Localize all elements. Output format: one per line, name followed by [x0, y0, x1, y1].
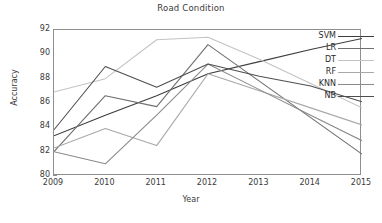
- legend-item-lr[interactable]: LR: [292, 43, 378, 55]
- y-tick-label: 86: [30, 98, 50, 106]
- x-tick-label: 2009: [36, 178, 70, 187]
- legend-swatch-lr-icon: [338, 48, 374, 49]
- y-tick-label: 84: [30, 122, 50, 130]
- legend-swatch-svm-icon: [338, 36, 374, 37]
- legend: SVMLRDTRFKNNNB: [292, 31, 378, 105]
- legend-item-dt[interactable]: DT: [292, 55, 378, 67]
- legend-item-svm[interactable]: SVM: [292, 31, 378, 43]
- legend-label: SVM: [319, 31, 336, 40]
- x-tick-label: 2010: [87, 178, 121, 187]
- legend-item-rf[interactable]: RF: [292, 67, 378, 79]
- x-axis-label: Year: [0, 195, 382, 204]
- x-tick-label: 2014: [293, 178, 327, 187]
- y-axis-label: Accuracy: [10, 53, 19, 123]
- x-tick-label: 2013: [241, 178, 275, 187]
- x-axis-tick-labels: 2009201020112012201320142015: [0, 178, 382, 192]
- y-tick-label: 82: [30, 147, 50, 155]
- legend-swatch-nb-icon: [338, 96, 374, 97]
- legend-item-nb[interactable]: NB: [292, 91, 378, 103]
- legend-swatch-knn-icon: [338, 84, 374, 85]
- y-tick-label: 88: [30, 74, 50, 82]
- chart-title: Road Condition: [0, 3, 382, 13]
- legend-item-knn[interactable]: KNN: [292, 79, 378, 91]
- legend-label: NB: [325, 91, 336, 100]
- legend-label: KNN: [319, 79, 336, 88]
- x-tick-label: 2015: [344, 178, 378, 187]
- x-tick-label: 2012: [190, 178, 224, 187]
- legend-label: LR: [326, 43, 336, 52]
- legend-swatch-dt-icon: [338, 60, 374, 61]
- x-tick-label: 2011: [139, 178, 173, 187]
- legend-swatch-rf-icon: [338, 72, 374, 73]
- legend-label: RF: [326, 67, 336, 76]
- y-tick-label: 90: [30, 49, 50, 57]
- legend-label: DT: [325, 55, 336, 64]
- chart-figure: Road Condition Accuracy Year 80828486889…: [0, 0, 382, 223]
- y-tick-label: 92: [30, 25, 50, 33]
